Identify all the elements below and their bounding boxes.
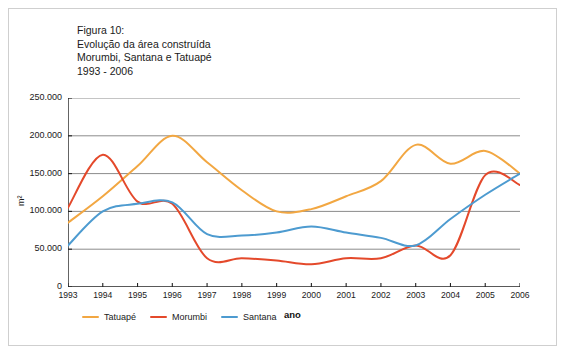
line-chart [68,98,520,287]
plot-area [68,98,520,287]
y-tick-label: 200.000 [6,130,62,140]
x-tick-label: 2006 [500,290,540,300]
y-tick-label: 50.000 [6,243,62,253]
figure-container: Figura 10: Evolução da área construída M… [0,0,567,355]
legend-label: Morumbi [172,312,207,322]
legend-swatch [82,316,99,318]
legend-swatch [221,316,238,318]
chart-legend: TatuapéMorumbiSantana [82,312,277,322]
figure-caption: Figura 10: Evolução da área construída M… [77,24,407,78]
x-axis-title: ano [284,309,301,320]
legend-item: Santana [221,312,277,322]
y-tick-label: 100.000 [6,205,62,215]
legend-swatch [150,316,167,318]
legend-item: Tatuapé [82,312,136,322]
legend-label: Santana [243,312,277,322]
y-tick-label: 150.000 [6,168,62,178]
legend-item: Morumbi [150,312,207,322]
legend-label: Tatuapé [104,312,136,322]
y-tick-label: 250.000 [6,92,62,102]
